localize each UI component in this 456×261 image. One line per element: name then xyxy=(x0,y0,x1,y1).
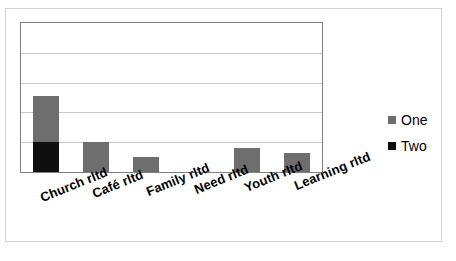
legend-item-one[interactable]: One xyxy=(388,110,440,129)
gray-square-icon xyxy=(388,116,396,124)
legend-label: Two xyxy=(401,139,427,153)
bar-group[interactable] xyxy=(33,96,59,172)
legend-item-two[interactable]: Two xyxy=(388,136,440,155)
bars-layer xyxy=(21,23,322,172)
plot-area xyxy=(20,22,323,173)
legend-label: One xyxy=(401,113,427,127)
bar-segment-one[interactable] xyxy=(33,96,59,142)
black-square-icon xyxy=(388,142,396,150)
chart-figure: Church rltdCafé rltdFamily rltdNeed rltd… xyxy=(5,8,442,242)
x-axis-category-labels: Church rltdCafé rltdFamily rltdNeed rltd… xyxy=(20,175,340,237)
bar-segment-two[interactable] xyxy=(33,142,59,172)
chart-legend: OneTwo xyxy=(388,110,440,162)
